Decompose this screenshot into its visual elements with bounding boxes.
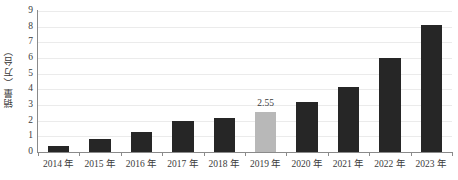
bar-slot[interactable] <box>89 11 111 152</box>
y-axis-tick-label: 5 <box>3 69 33 79</box>
bar-slot[interactable] <box>172 11 194 152</box>
x-axis-tick <box>79 152 80 156</box>
bar[interactable] <box>48 146 70 152</box>
bar[interactable] <box>255 112 277 152</box>
bar-slot[interactable] <box>214 11 236 152</box>
x-axis-tick <box>38 152 39 156</box>
x-axis-label: 2015 年 <box>79 158 120 170</box>
x-axis-tick <box>121 152 122 156</box>
x-axis-tick <box>411 152 412 156</box>
x-axis-label: 2023 年 <box>411 158 452 170</box>
plot-area: 2.55 <box>38 11 452 152</box>
bar-slot[interactable]: 2.55 <box>255 11 277 152</box>
bar-chart: 销量（万台） 0123456789 2.55 2014 年2015 年2016 … <box>0 0 458 180</box>
bar[interactable] <box>338 87 360 152</box>
x-axis-tick <box>369 152 370 156</box>
x-axis-label: 2018 年 <box>204 158 245 170</box>
bar-slot[interactable] <box>296 11 318 152</box>
bar-slot[interactable] <box>338 11 360 152</box>
x-axis-tick <box>452 152 453 156</box>
bar-slot[interactable] <box>48 11 70 152</box>
bar[interactable] <box>296 102 318 152</box>
x-axis-tick <box>328 152 329 156</box>
x-axis-label: 2019 年 <box>245 158 286 170</box>
bar[interactable] <box>131 132 153 152</box>
bar[interactable] <box>172 121 194 152</box>
x-axis-tick <box>162 152 163 156</box>
bar-value-label: 2.55 <box>243 99 289 109</box>
bar-slot[interactable] <box>379 11 401 152</box>
x-axis-labels: 2014 年2015 年2016 年2017 年2018 年2019 年2020… <box>38 158 452 176</box>
y-axis-tick-label: 9 <box>3 6 33 16</box>
y-axis-tick-label: 8 <box>3 22 33 32</box>
bar-slot[interactable] <box>131 11 153 152</box>
x-axis-label: 2021 年 <box>328 158 369 170</box>
x-axis-tick <box>204 152 205 156</box>
y-axis-tick-label: 6 <box>3 53 33 63</box>
x-axis-label: 2020 年 <box>286 158 327 170</box>
bar[interactable] <box>379 58 401 152</box>
x-axis-label: 2014 年 <box>38 158 79 170</box>
x-axis-tick <box>245 152 246 156</box>
y-axis-tick-label: 3 <box>3 100 33 110</box>
x-axis-label: 2017 年 <box>162 158 203 170</box>
y-axis-tick-label: 4 <box>3 85 33 95</box>
bar[interactable] <box>421 25 443 152</box>
bar-slot[interactable] <box>421 11 443 152</box>
y-axis-tick-label: 7 <box>3 38 33 48</box>
bar[interactable] <box>214 118 236 152</box>
x-axis-tick <box>286 152 287 156</box>
bar[interactable] <box>89 139 111 152</box>
y-axis-tick-label: 1 <box>3 132 33 142</box>
y-axis-tick-labels: 0123456789 <box>0 11 33 152</box>
x-axis-label: 2016 年 <box>121 158 162 170</box>
y-axis-tick-label: 2 <box>3 116 33 126</box>
y-axis-tick-label: 0 <box>3 147 33 157</box>
x-axis-label: 2022 年 <box>369 158 410 170</box>
